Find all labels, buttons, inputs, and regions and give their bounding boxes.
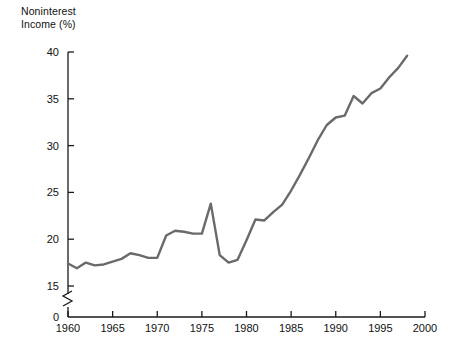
axes-layer	[68, 52, 425, 317]
y-tick-label: 40	[33, 46, 59, 58]
axis-break-mark	[63, 291, 72, 306]
y-tick-label: 20	[33, 233, 59, 245]
chart-container: Noninterest Income (%) 152025303540 1960…	[0, 0, 452, 352]
series-line-0	[68, 56, 407, 268]
x-tick-label: 1990	[316, 322, 356, 334]
tick-marks-layer	[68, 52, 425, 317]
x-tick-label: 1975	[182, 322, 222, 334]
x-tick-label: 1960	[48, 322, 88, 334]
y-tick-label: 25	[33, 186, 59, 198]
chart-svg	[0, 0, 452, 352]
y-tick-label: 15	[33, 280, 59, 292]
x-tick-label: 1985	[271, 322, 311, 334]
y-tick-label: 35	[33, 93, 59, 105]
data-series-layer	[68, 56, 407, 268]
x-tick-label: 1980	[227, 322, 267, 334]
x-tick-label: 1995	[360, 322, 400, 334]
y-axis-zero-label: 0	[33, 311, 59, 323]
y-tick-label: 30	[33, 140, 59, 152]
x-tick-label: 2000	[405, 322, 445, 334]
x-tick-label: 1970	[137, 322, 177, 334]
x-tick-label: 1965	[93, 322, 133, 334]
